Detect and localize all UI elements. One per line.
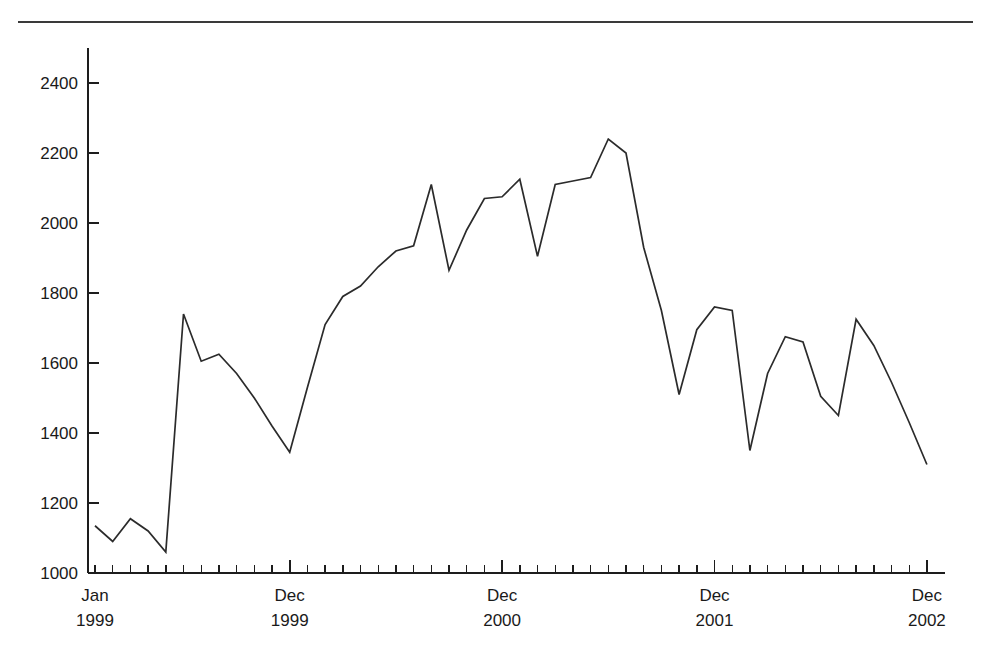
y-axis-tick-label: 2000 xyxy=(40,214,78,233)
y-axis-tick-label: 1400 xyxy=(40,424,78,443)
x-axis-tick-label-month: Dec xyxy=(487,586,518,605)
chart-figure: 10001200140016001800200022002400 Jan1999… xyxy=(0,0,990,668)
x-axis-tick-label-year: 2002 xyxy=(908,611,946,630)
x-axis-tick-label-year: 1999 xyxy=(76,611,114,630)
line-chart-plot: 10001200140016001800200022002400 Jan1999… xyxy=(0,0,990,668)
x-axis-tick-label-year: 1999 xyxy=(271,611,309,630)
x-axis-tick-label-year: 2001 xyxy=(696,611,734,630)
y-axis-tick-label: 2400 xyxy=(40,74,78,93)
y-axis-tick-label: 1800 xyxy=(40,284,78,303)
x-axis-tick-label-year: 2000 xyxy=(483,611,521,630)
x-axis-tick-label-month: Dec xyxy=(699,586,730,605)
x-axis-tick-label-month: Dec xyxy=(275,586,306,605)
series-polyline xyxy=(95,139,927,552)
y-axis-tick-label: 1000 xyxy=(40,564,78,583)
y-axis-tick-label: 1600 xyxy=(40,354,78,373)
data-series xyxy=(95,139,927,552)
y-axis: 10001200140016001800200022002400 xyxy=(40,48,99,583)
x-axis: Jan1999Dec1999Dec2000Dec2001Dec2002 xyxy=(76,560,946,630)
y-axis-tick-label: 2200 xyxy=(40,144,78,163)
x-axis-tick-label-month: Jan xyxy=(81,586,108,605)
x-axis-tick-label-month: Dec xyxy=(912,586,943,605)
y-axis-tick-label: 1200 xyxy=(40,494,78,513)
